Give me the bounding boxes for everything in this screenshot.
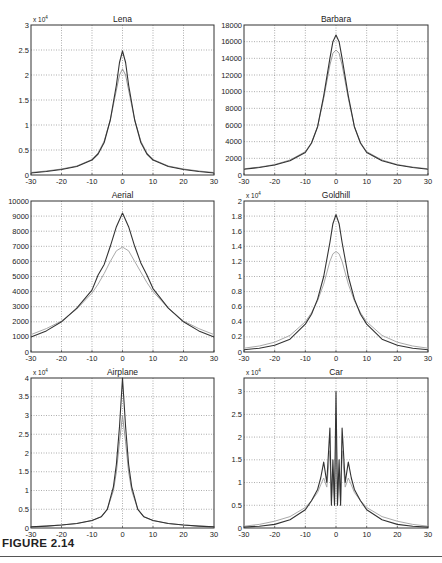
y-tick-label: 2 bbox=[25, 71, 29, 80]
y-tick-label: 12000 bbox=[221, 71, 242, 80]
y-tick-label: 1 bbox=[25, 486, 29, 495]
y-tick-label: 10000 bbox=[221, 87, 242, 96]
series-dark bbox=[244, 392, 428, 527]
y-tick-label: 2 bbox=[238, 197, 242, 206]
figure-caption: FIGURE 2.14 bbox=[2, 537, 74, 549]
y-tick-label: 1.6 bbox=[232, 227, 242, 236]
subplot-title: Goldhill bbox=[322, 190, 350, 200]
x-tick-label: -10 bbox=[87, 354, 98, 363]
y-tick-label: 0 bbox=[238, 171, 242, 180]
y-tick-label: 0.8 bbox=[232, 287, 242, 296]
y-tick-label: 9000 bbox=[12, 212, 29, 221]
y-tick-label: 4000 bbox=[225, 137, 242, 146]
subplot-car: -30-20-10010203000.511.522.53Carx 104 bbox=[232, 367, 433, 539]
x-tick-label: 30 bbox=[210, 354, 218, 363]
x-tick-label: 20 bbox=[393, 354, 401, 363]
y-tick-label: 0 bbox=[238, 524, 242, 533]
y-tick-label: 14000 bbox=[221, 54, 242, 63]
series-dark bbox=[31, 378, 214, 527]
figure-canvas: -30-20-10010203000.511.522.53Lenax 104-3… bbox=[0, 0, 442, 563]
y-tick-label: 10000 bbox=[8, 197, 29, 206]
y-tick-label: 2.5 bbox=[232, 410, 242, 419]
x-tick-label: -20 bbox=[269, 177, 280, 186]
y-tick-label: 5000 bbox=[12, 272, 29, 281]
subplot-airplane: -30-20-10010203000.511.522.533.54Airplan… bbox=[19, 367, 219, 539]
x-tick-label: 20 bbox=[179, 354, 187, 363]
x-tick-label: 10 bbox=[149, 354, 157, 363]
x-tick-label: 30 bbox=[210, 530, 218, 539]
x-tick-label: 0 bbox=[334, 177, 338, 186]
y-tick-label: 2.5 bbox=[19, 430, 29, 439]
y-tick-label: 1.5 bbox=[232, 455, 242, 464]
y-tick-label: 1.4 bbox=[232, 242, 242, 251]
subplot-aerial: -30-20-100102030010002000300040005000600… bbox=[8, 190, 218, 363]
subplot-title: Car bbox=[329, 367, 343, 377]
x-tick-label: 10 bbox=[362, 354, 370, 363]
exponent-label: x 104 bbox=[33, 15, 48, 23]
y-tick-label: 1 bbox=[238, 478, 242, 487]
x-tick-label: -10 bbox=[300, 530, 311, 539]
y-tick-label: 1.5 bbox=[19, 96, 29, 105]
y-tick-label: 6000 bbox=[12, 257, 29, 266]
y-tick-label: 0 bbox=[25, 171, 29, 180]
y-tick-label: 2 bbox=[25, 449, 29, 458]
y-tick-label: 4000 bbox=[12, 287, 29, 296]
y-tick-label: 1 bbox=[238, 272, 242, 281]
x-tick-label: 0 bbox=[120, 177, 124, 186]
y-tick-label: 0.6 bbox=[232, 302, 242, 311]
y-tick-label: 1 bbox=[25, 121, 29, 130]
x-tick-label: 0 bbox=[334, 354, 338, 363]
y-tick-label: 7000 bbox=[12, 242, 29, 251]
x-tick-label: 20 bbox=[179, 530, 187, 539]
y-tick-label: 0.2 bbox=[232, 332, 242, 341]
y-tick-label: 0.5 bbox=[19, 146, 29, 155]
y-tick-label: 3 bbox=[25, 411, 29, 420]
y-tick-label: 0.5 bbox=[19, 505, 29, 514]
y-tick-label: 2000 bbox=[12, 317, 29, 326]
y-tick-label: 3 bbox=[238, 387, 242, 396]
y-tick-label: 0.5 bbox=[232, 501, 242, 510]
x-tick-label: 10 bbox=[362, 530, 370, 539]
x-tick-label: 20 bbox=[393, 177, 401, 186]
y-tick-label: 2000 bbox=[225, 154, 242, 163]
series-light bbox=[244, 419, 428, 526]
subplot-title: Lena bbox=[113, 14, 132, 24]
y-tick-label: 18000 bbox=[221, 21, 242, 30]
x-tick-label: -20 bbox=[269, 354, 280, 363]
x-tick-label: -20 bbox=[56, 177, 67, 186]
y-tick-label: 4 bbox=[25, 374, 29, 383]
y-tick-label: 6000 bbox=[225, 121, 242, 130]
y-tick-label: 8000 bbox=[12, 227, 29, 236]
y-tick-label: 0 bbox=[25, 348, 29, 357]
x-tick-label: 20 bbox=[393, 530, 401, 539]
y-tick-label: 1000 bbox=[12, 332, 29, 341]
x-tick-label: 0 bbox=[120, 354, 124, 363]
x-tick-label: 30 bbox=[424, 530, 432, 539]
y-tick-label: 2 bbox=[238, 433, 242, 442]
x-tick-label: -20 bbox=[269, 530, 280, 539]
exponent-label: x 104 bbox=[246, 191, 261, 199]
subplot-title: Airplane bbox=[107, 367, 138, 377]
x-tick-label: 30 bbox=[424, 177, 432, 186]
y-tick-label: 1.5 bbox=[19, 467, 29, 476]
y-tick-label: 2.5 bbox=[19, 46, 29, 55]
exponent-label: x 104 bbox=[33, 368, 48, 376]
x-tick-label: 30 bbox=[210, 177, 218, 186]
y-tick-label: 16000 bbox=[221, 37, 242, 46]
y-tick-label: 3.5 bbox=[19, 392, 29, 401]
exponent-label: x 104 bbox=[246, 368, 261, 376]
x-tick-label: 20 bbox=[179, 177, 187, 186]
y-tick-label: 0.4 bbox=[232, 317, 242, 326]
subplot-title: Barbara bbox=[321, 14, 352, 24]
x-tick-label: -10 bbox=[300, 354, 311, 363]
y-tick-label: 0 bbox=[238, 348, 242, 357]
x-tick-label: 0 bbox=[120, 530, 124, 539]
subplot-goldhill: -30-20-10010203000.20.40.60.811.21.41.61… bbox=[232, 190, 433, 363]
y-tick-label: 3000 bbox=[12, 302, 29, 311]
subplot-barbara: -30-20-100102030020004000600080001000012… bbox=[221, 14, 432, 186]
bottom-rule bbox=[0, 556, 442, 557]
subplot-title: Aerial bbox=[112, 190, 134, 200]
y-tick-label: 1.2 bbox=[232, 257, 242, 266]
x-tick-label: -10 bbox=[300, 177, 311, 186]
y-tick-label: 1.8 bbox=[232, 212, 242, 221]
